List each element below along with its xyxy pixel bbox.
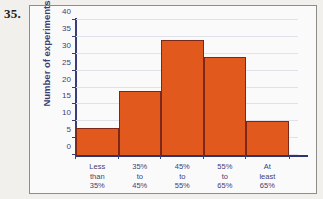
problem-number: 35. bbox=[4, 6, 21, 22]
x-axis-category-line: to bbox=[161, 172, 204, 182]
figure: 35. Number of experiments 05101520253035… bbox=[0, 0, 323, 199]
bar-slot bbox=[119, 20, 162, 155]
x-axis-tick-mark bbox=[160, 155, 161, 159]
x-axis-tick-mark bbox=[245, 155, 246, 159]
chart-panel: Number of experiments 0510152025303540 L… bbox=[29, 5, 317, 194]
x-axis-line bbox=[75, 155, 308, 157]
x-axis-category-line: 35% bbox=[76, 181, 119, 191]
bar bbox=[161, 40, 204, 155]
x-axis-category-line: 65% bbox=[246, 181, 289, 191]
x-axis-category-line: 45% bbox=[119, 181, 162, 191]
bar bbox=[246, 121, 289, 155]
x-axis-category-label: Atleast65% bbox=[246, 162, 289, 191]
x-axis-category-line: 35% bbox=[119, 162, 162, 172]
x-axis-tick-mark bbox=[289, 155, 290, 159]
x-axis-category-line: Less bbox=[76, 162, 119, 172]
plot-area: 0510152025303540 bbox=[76, 20, 298, 155]
x-axis-category-line: than bbox=[76, 172, 119, 182]
x-axis-category-line: to bbox=[119, 172, 162, 182]
bar-slot bbox=[246, 20, 289, 155]
x-axis-category-line: 55% bbox=[161, 181, 204, 191]
x-axis-category-line: to bbox=[204, 172, 247, 182]
y-axis-tick-label: 35 bbox=[62, 23, 71, 32]
x-axis-category-line: At bbox=[246, 162, 289, 172]
x-axis-tick-mark bbox=[118, 155, 119, 159]
x-axis-labels: Lessthan35%35%to45%45%to55%55%to65%Atlea… bbox=[76, 162, 298, 191]
y-axis-tick-label: 20 bbox=[62, 74, 71, 83]
x-axis-category-line: 45% bbox=[161, 162, 204, 172]
y-axis-tick-label: 25 bbox=[62, 57, 71, 66]
x-axis-category-line: 65% bbox=[204, 181, 247, 191]
bar-slot bbox=[204, 20, 247, 155]
y-axis-tick-label: 30 bbox=[62, 40, 71, 49]
x-axis-category-label: 45%to55% bbox=[161, 162, 204, 191]
y-axis-tick-label: 5 bbox=[67, 125, 71, 134]
x-axis-category-label: 35%to45% bbox=[119, 162, 162, 191]
bar bbox=[204, 57, 247, 155]
x-axis-category-line: 55% bbox=[204, 162, 247, 172]
x-axis-tick-mark bbox=[75, 155, 76, 159]
bar bbox=[119, 91, 162, 155]
x-axis-tick-mark bbox=[203, 155, 204, 159]
x-axis-category-label: 55%to65% bbox=[204, 162, 247, 191]
x-axis-category-line: least bbox=[246, 172, 289, 182]
y-axis-title: Number of experiments bbox=[41, 0, 52, 114]
y-axis-tick-label: 10 bbox=[62, 108, 71, 117]
y-axis-tick-label: 40 bbox=[62, 7, 71, 16]
x-axis-category-label: Lessthan35% bbox=[76, 162, 119, 191]
bar-series bbox=[76, 20, 298, 155]
y-axis-tick-label: 15 bbox=[62, 91, 71, 100]
bar-slot bbox=[76, 20, 119, 155]
y-axis-tick-label: 0 bbox=[67, 142, 71, 151]
bar-slot bbox=[161, 20, 204, 155]
bar bbox=[76, 128, 119, 155]
